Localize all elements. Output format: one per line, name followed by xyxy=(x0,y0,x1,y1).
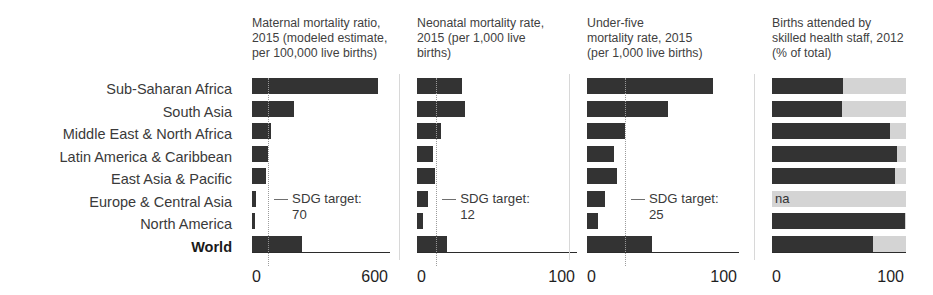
sdg-target-line xyxy=(625,78,626,266)
bar-east-asia-pacific xyxy=(587,168,617,184)
x-axis-line xyxy=(417,252,577,253)
bar-latin-america-caribbean xyxy=(417,146,433,162)
bar-row xyxy=(252,168,390,184)
sdg-target-line xyxy=(436,78,437,266)
bar-row xyxy=(252,236,390,252)
bar-north-america xyxy=(252,213,255,229)
bar-latin-america-caribbean xyxy=(252,146,268,162)
bar-north-america xyxy=(587,213,598,229)
bar-row xyxy=(417,101,577,117)
bar-north-america xyxy=(772,213,905,229)
bar-north-america xyxy=(417,213,423,229)
panel-divider xyxy=(569,74,570,260)
panel-title-births-attended-by-skilled-health-staff: Births attended by skilled health staff,… xyxy=(772,16,933,62)
panel-title-under-five-mortality-rate: Under-five mortality rate, 2015 (per 1,0… xyxy=(587,16,747,62)
bar-row xyxy=(252,101,390,117)
bar-middle-east-north-africa xyxy=(772,123,890,139)
bar-sub-saharan-africa xyxy=(772,78,843,94)
category-axis-labels: Sub-Saharan AfricaSouth AsiaMiddle East … xyxy=(0,78,232,268)
bar-east-asia-pacific xyxy=(772,168,895,184)
x-axis-tick-label: 600 xyxy=(361,268,388,286)
bar-row xyxy=(772,168,906,184)
category-label-europe-central-asia: Europe & Central Asia xyxy=(89,191,232,214)
bar-row xyxy=(772,146,906,162)
bar-latin-america-caribbean xyxy=(772,146,897,162)
bar-row xyxy=(252,123,390,139)
plot-area-maternal-mortality-ratio: SDG target: 70 xyxy=(252,78,390,268)
bar-sub-saharan-africa xyxy=(587,78,713,94)
bar-middle-east-north-africa xyxy=(417,123,441,139)
sdg-target-annotation: SDG target: 25 xyxy=(649,191,719,224)
sdg-target-leader-line xyxy=(442,199,456,200)
multi-panel-bar-chart-figure: Sub-Saharan AfricaSouth AsiaMiddle East … xyxy=(0,0,933,295)
bar-row xyxy=(417,146,577,162)
bar-row xyxy=(587,101,739,117)
panel-divider xyxy=(754,74,755,260)
x-axis-tick-label: 100 xyxy=(710,268,737,286)
bar-europe-central-asia xyxy=(252,191,256,207)
bar-row xyxy=(587,236,739,252)
bar-east-asia-pacific xyxy=(252,168,266,184)
x-axis-line xyxy=(252,252,390,253)
panel-title-maternal-mortality-ratio: Maternal mortality ratio, 2015 (modeled … xyxy=(252,16,412,62)
x-axis-line xyxy=(587,252,739,253)
bar-row xyxy=(587,146,739,162)
bar-europe-central-asia xyxy=(587,191,605,207)
panel-divider xyxy=(399,74,400,260)
x-axis-tick-label: 100 xyxy=(877,268,904,286)
bar-row xyxy=(772,78,906,94)
sdg-target-line xyxy=(268,78,269,266)
sdg-target-leader-line xyxy=(631,199,645,200)
x-axis-line xyxy=(772,252,906,253)
x-axis-tick-label: 0 xyxy=(587,268,596,286)
bar-east-asia-pacific xyxy=(417,168,435,184)
x-axis-tick-label: 0 xyxy=(772,268,781,286)
bar-row xyxy=(772,123,906,139)
bar-row xyxy=(587,123,739,139)
bar-track xyxy=(772,191,906,207)
bar-world xyxy=(252,236,302,252)
category-label-sub-saharan-africa: Sub-Saharan Africa xyxy=(106,78,232,101)
plot-area-under-five-mortality-rate: SDG target: 25 xyxy=(587,78,739,268)
bar-south-asia xyxy=(252,101,294,117)
bar-row xyxy=(417,236,577,252)
bar-sub-saharan-africa xyxy=(417,78,462,94)
sdg-target-annotation: SDG target: 12 xyxy=(460,191,530,224)
bar-row: na xyxy=(772,191,906,207)
bar-world xyxy=(417,236,447,252)
bar-row xyxy=(772,236,906,252)
x-axis-tick-label: 0 xyxy=(417,268,426,286)
bar-row xyxy=(772,213,906,229)
category-label-north-america: North America xyxy=(140,213,232,236)
category-label-east-asia-pacific: East Asia & Pacific xyxy=(111,168,232,191)
bar-row xyxy=(587,78,739,94)
category-label-latin-america-caribbean: Latin America & Caribbean xyxy=(60,146,233,169)
x-axis-tick-label: 100 xyxy=(548,268,575,286)
bar-row xyxy=(252,78,390,94)
bar-row xyxy=(587,168,739,184)
plot-area-births-attended-by-skilled-health-staff: na xyxy=(772,78,906,268)
sdg-target-annotation: SDG target: 70 xyxy=(292,191,362,224)
x-axis-tick-label: 0 xyxy=(252,268,261,286)
bar-europe-central-asia xyxy=(417,191,428,207)
bar-world xyxy=(587,236,652,252)
plot-area-neonatal-mortality-rate: SDG target: 12 xyxy=(417,78,577,268)
bar-row xyxy=(417,78,577,94)
bar-row xyxy=(252,146,390,162)
bar-latin-america-caribbean xyxy=(587,146,614,162)
bar-row xyxy=(417,168,577,184)
bar-row xyxy=(417,123,577,139)
category-label-world: World xyxy=(191,236,232,259)
panel-title-neonatal-mortality-rate: Neonatal mortality rate, 2015 (per 1,000… xyxy=(417,16,577,62)
bar-south-asia xyxy=(417,101,465,117)
bar-south-asia xyxy=(772,101,842,117)
sdg-target-leader-line xyxy=(274,199,288,200)
category-label-south-asia: South Asia xyxy=(163,101,232,124)
bar-south-asia xyxy=(587,101,668,117)
bar-middle-east-north-africa xyxy=(587,123,625,139)
bar-world xyxy=(772,236,873,252)
bar-sub-saharan-africa xyxy=(252,78,378,94)
na-label: na xyxy=(775,191,789,207)
category-label-middle-east-north-africa: Middle East & North Africa xyxy=(63,123,232,146)
bar-row xyxy=(772,101,906,117)
